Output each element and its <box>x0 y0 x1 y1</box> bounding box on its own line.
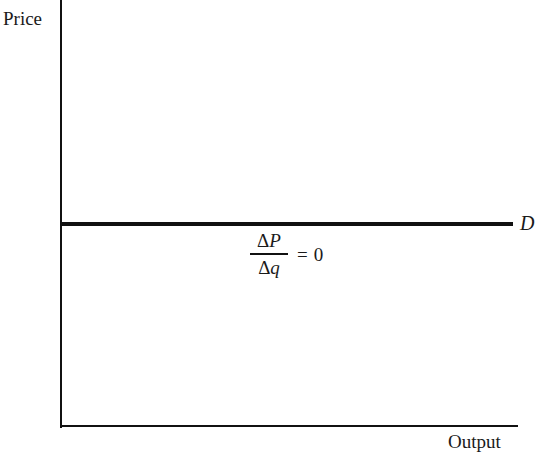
y-axis-label: Price <box>3 8 42 30</box>
delta-symbol-denominator: Δ <box>258 257 270 278</box>
fraction-numerator: ΔP <box>254 230 284 251</box>
x-axis-label: Output <box>448 431 501 453</box>
fraction-denominator: Δq <box>255 257 283 278</box>
demand-curve-line <box>60 222 513 226</box>
demand-curve-label: D <box>520 212 534 234</box>
slope-fraction: ΔP Δq <box>250 230 288 278</box>
equals-sign: = <box>297 244 308 265</box>
slope-value: 0 <box>314 244 324 265</box>
slope-annotation: ΔP Δq = 0 <box>250 230 323 278</box>
price-variable: P <box>269 230 281 251</box>
economics-demand-chart: Price Output D ΔP Δq = 0 <box>0 0 546 458</box>
y-axis-line <box>60 0 62 428</box>
fraction-bar <box>250 253 288 255</box>
delta-symbol-numerator: Δ <box>257 230 269 251</box>
quantity-variable: q <box>270 257 280 278</box>
x-axis-line <box>60 425 518 427</box>
